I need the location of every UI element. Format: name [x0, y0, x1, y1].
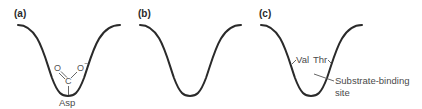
asp-label: Asp: [59, 97, 75, 108]
negative-charge-label: −: [84, 60, 88, 67]
panel-b-label: (b): [138, 8, 151, 19]
double-bond-line-2: [61, 72, 67, 78]
panel-b-pocket-curve: [140, 25, 241, 96]
panel-c: (c) Val Thr Substrate-binding site: [259, 8, 409, 98]
asp-carboxylate-group: O O − C: [54, 60, 88, 95]
substrate-site-label-line1: Substrate-binding: [335, 75, 409, 86]
panel-c-label: (c): [259, 8, 271, 19]
thr-label: Thr: [313, 54, 327, 65]
panel-a: (a) O O − C Asp: [14, 8, 120, 108]
oxygen-left-label: O: [54, 63, 61, 73]
thr-leader-line: [328, 60, 331, 63]
enzyme-pocket-diagram: (a) O O − C Asp (b) (c) Val Thr Substrat…: [0, 0, 422, 109]
panel-b: (b): [138, 8, 241, 96]
substrate-site-leader-line: [314, 74, 334, 81]
substrate-site-label-line2: site: [335, 87, 350, 98]
single-bond-line: [71, 72, 77, 78]
val-label: Val: [296, 54, 309, 65]
panel-a-label: (a): [14, 8, 26, 19]
oxygen-right-label: O: [77, 63, 84, 73]
